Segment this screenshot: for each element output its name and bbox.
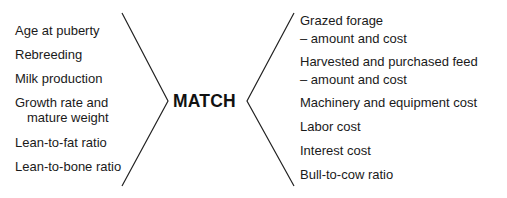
left-item-label-line2: mature weight bbox=[15, 110, 109, 125]
left-item-lean-to-bone: Lean-to-bone ratio bbox=[15, 159, 121, 174]
left-item-label: Milk production bbox=[15, 71, 102, 86]
left-item-label: Lean-to-bone ratio bbox=[15, 159, 121, 174]
right-item-harvested-feed: Harvested and purchased feed – amount an… bbox=[300, 54, 478, 87]
left-item-lean-to-fat: Lean-to-fat ratio bbox=[15, 135, 107, 150]
left-item-label: Rebreeding bbox=[15, 47, 82, 62]
left-item-label: Growth rate and bbox=[15, 95, 109, 110]
right-item-label: Bull-to-cow ratio bbox=[300, 167, 393, 182]
left-item-rebreeding: Rebreeding bbox=[15, 47, 82, 62]
right-item-label: Grazed forage bbox=[300, 13, 407, 28]
right-chevron bbox=[247, 13, 294, 186]
right-item-label-line2: – amount and cost bbox=[300, 31, 407, 46]
right-item-label: Interest cost bbox=[300, 143, 371, 158]
right-item-machinery: Machinery and equipment cost bbox=[300, 95, 477, 110]
left-item-age-at-puberty: Age at puberty bbox=[15, 23, 100, 38]
right-item-label-line2: – amount and cost bbox=[300, 72, 478, 87]
right-item-grazed-forage: Grazed forage – amount and cost bbox=[300, 13, 407, 46]
left-chevron bbox=[122, 13, 168, 186]
left-item-label: Age at puberty bbox=[15, 23, 100, 38]
left-item-growth-rate: Growth rate and mature weight bbox=[15, 95, 109, 125]
left-item-label: Lean-to-fat ratio bbox=[15, 135, 107, 150]
left-item-milk-production: Milk production bbox=[15, 71, 102, 86]
right-item-bull-to-cow: Bull-to-cow ratio bbox=[300, 167, 393, 182]
right-item-label: Labor cost bbox=[300, 119, 361, 134]
right-item-label: Harvested and purchased feed bbox=[300, 54, 478, 69]
right-item-label: Machinery and equipment cost bbox=[300, 95, 477, 110]
right-item-labor: Labor cost bbox=[300, 119, 361, 134]
right-item-interest: Interest cost bbox=[300, 143, 371, 158]
center-label: MATCH bbox=[173, 91, 236, 112]
